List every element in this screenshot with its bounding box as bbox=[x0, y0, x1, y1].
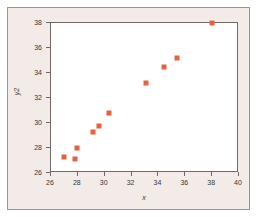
scatter-point bbox=[73, 157, 78, 162]
x-axis-tick bbox=[104, 172, 105, 176]
y-axis-tick bbox=[46, 47, 50, 48]
scatter-point bbox=[74, 146, 79, 151]
scatter-point bbox=[106, 111, 111, 116]
y-axis-tick bbox=[46, 172, 50, 173]
scatter-point bbox=[97, 123, 102, 128]
x-axis-tick-label: 28 bbox=[66, 178, 88, 187]
x-axis-tick-label: 32 bbox=[120, 178, 142, 187]
y-axis-title: y2 bbox=[13, 88, 20, 95]
y-axis-tick bbox=[46, 72, 50, 73]
x-axis-tick-label: 34 bbox=[146, 178, 168, 187]
x-axis-tick-label: 36 bbox=[173, 178, 195, 187]
x-axis-tick-label: 30 bbox=[93, 178, 115, 187]
scatter-point bbox=[62, 154, 67, 159]
y-axis-tick-label: 28 bbox=[22, 143, 42, 152]
y-axis-tick-label: 32 bbox=[22, 93, 42, 102]
x-axis-tick bbox=[50, 172, 51, 176]
x-axis-tick bbox=[211, 172, 212, 176]
x-axis-tick-label: 26 bbox=[39, 178, 61, 187]
x-axis-tick bbox=[131, 172, 132, 176]
scatter-point bbox=[175, 56, 180, 61]
y-axis-tick-label: 26 bbox=[22, 168, 42, 177]
scatter-plot-figure-image: 2628303234363840 26283032343638 x y2 bbox=[0, 0, 257, 217]
y-axis-tick-label: 34 bbox=[22, 68, 42, 77]
y-axis-tick bbox=[46, 147, 50, 148]
x-axis-tick-label: 38 bbox=[200, 178, 222, 187]
scatter-point bbox=[90, 129, 95, 134]
figure-canvas: 2628303234363840 26283032343638 x y2 bbox=[0, 0, 257, 217]
x-axis-tick bbox=[77, 172, 78, 176]
x-axis-tick bbox=[238, 172, 239, 176]
x-axis-tick-label: 40 bbox=[227, 178, 249, 187]
y-axis-tick bbox=[46, 97, 50, 98]
x-axis-title: x bbox=[50, 194, 238, 201]
x-axis-tick bbox=[184, 172, 185, 176]
y-axis-tick-label: 36 bbox=[22, 43, 42, 52]
scatter-point bbox=[161, 64, 166, 69]
y-axis-tick bbox=[46, 22, 50, 23]
scatter-point bbox=[144, 81, 149, 86]
plot-panel bbox=[50, 22, 238, 172]
x-axis-tick bbox=[157, 172, 158, 176]
y-axis-tick-label: 38 bbox=[22, 18, 42, 27]
scatter-point bbox=[210, 21, 215, 26]
y-axis-tick bbox=[46, 122, 50, 123]
y-axis-tick-label: 30 bbox=[22, 118, 42, 127]
